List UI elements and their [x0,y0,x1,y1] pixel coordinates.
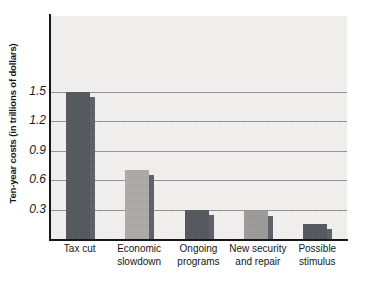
bar-group [303,224,332,239]
bar [244,211,268,239]
bar-shadow [209,215,214,239]
x-axis-category-label: Ongoing programs [169,243,228,268]
bar-group [244,211,273,239]
y-axis-tick-label: 1.5 [16,85,46,97]
y-axis-tick-label: 0.6 [16,173,46,185]
x-axis-category-label: Economic slowdown [109,243,168,268]
x-axis-category-label: Tax cut [50,243,109,256]
y-axis-tick-labels: 1.51.20.90.60.3 [12,0,46,281]
bar-group [185,210,214,239]
bar-group [66,92,95,239]
x-axis-line [49,239,348,241]
plot-area [50,16,347,239]
bar-chart: Ten-year costs (in trillions of dollars)… [0,0,365,281]
bar-group [125,170,154,239]
bar-shadow [268,216,273,239]
x-axis-category-labels: Tax cutEconomic slowdownOngoing programs… [50,243,347,281]
bar [185,210,209,239]
x-axis-category-label: New security and repair [228,243,287,268]
bar-shadow [149,175,154,239]
bar-shadow [327,229,332,239]
bar [125,170,149,239]
y-axis-tick-label: 1.2 [16,114,46,126]
y-axis-tick-label: 0.3 [16,203,46,215]
bar [303,224,327,239]
x-axis-category-label: Possible stimulus [288,243,347,268]
y-axis-line [49,14,51,241]
bar-shadow [90,97,95,239]
bar [66,92,90,239]
y-axis-tick-label: 0.9 [16,144,46,156]
